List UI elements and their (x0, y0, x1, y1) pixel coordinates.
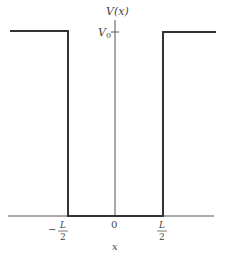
tick-zero: 0 (111, 219, 117, 230)
x-axis-label: x (112, 241, 118, 252)
potential-curve (10, 31, 216, 216)
tick-right-denominator: 2 (159, 232, 165, 242)
tick-minus-sign: − (48, 224, 56, 235)
v0-label: V0 (98, 26, 111, 40)
potential-well-diagram: V(x) V0 − L 2 0 L 2 x (0, 0, 225, 253)
tick-right-numerator: L (158, 220, 165, 230)
tick-left-denominator: 2 (60, 232, 66, 242)
tick-left-numerator: L (59, 220, 66, 230)
y-axis-label: V(x) (106, 5, 129, 18)
